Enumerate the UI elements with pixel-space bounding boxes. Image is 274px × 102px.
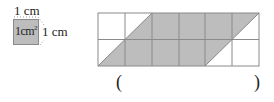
grid-diagram [0,0,274,102]
answer-open-paren: ( [116,72,122,93]
answer-close-paren: ) [254,72,260,93]
